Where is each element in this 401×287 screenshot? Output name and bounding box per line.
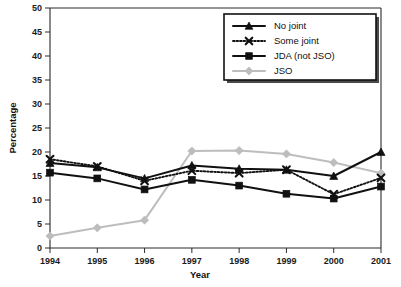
legend-label: No joint [274, 20, 307, 31]
y-tick-label: 10 [32, 195, 42, 205]
legend-label: Some joint [274, 35, 319, 46]
x-tick-label: 1996 [135, 256, 155, 266]
legend-label: JSO [274, 65, 292, 76]
data-point-diamond [330, 158, 338, 166]
x-tick-label: 1997 [182, 256, 202, 266]
data-point-diamond [235, 146, 243, 154]
x-tick-label: 2001 [371, 256, 391, 266]
y-tick-label: 25 [32, 123, 42, 133]
data-point-square [236, 182, 243, 189]
data-point-diamond [46, 232, 54, 240]
y-tick-label: 45 [32, 27, 42, 37]
x-tick-label: 1994 [40, 256, 60, 266]
x-axis-title: Year [190, 269, 210, 280]
y-tick-label: 35 [32, 75, 42, 85]
x-tick-label: 1999 [276, 256, 296, 266]
y-axis-title: Percentage [7, 102, 18, 153]
data-point-square [283, 190, 290, 197]
y-tick-label: 5 [37, 219, 42, 229]
chart-series [46, 146, 385, 240]
data-point-square [378, 183, 385, 190]
x-tick-label: 1998 [229, 256, 249, 266]
chart-figure: 0510152025303540455019941995199619971998… [0, 0, 401, 287]
chart-legend[interactable]: No jointSome jointJDA (not JSO)JSO [224, 14, 379, 83]
data-point-square [94, 175, 101, 182]
legend-label: JDA (not JSO) [274, 50, 335, 61]
y-tick-label: 30 [32, 99, 42, 109]
data-point-square [141, 186, 148, 193]
legend-item-some-joint[interactable]: Some joint [233, 35, 319, 46]
data-point-square [188, 176, 195, 183]
data-point-diamond [93, 224, 101, 232]
line-chart: 0510152025303540455019941995199619971998… [0, 0, 401, 287]
x-tick-label: 2000 [324, 256, 344, 266]
data-point-square [246, 53, 253, 60]
y-tick-label: 15 [32, 171, 42, 181]
x-tick-label: 1995 [87, 256, 107, 266]
data-point-diamond [282, 150, 290, 158]
y-tick-label: 50 [32, 3, 42, 13]
data-point-triangle [377, 148, 385, 155]
y-tick-label: 20 [32, 147, 42, 157]
y-tick-label: 40 [32, 51, 42, 61]
data-point-square [47, 169, 54, 176]
y-tick-label: 0 [37, 243, 42, 253]
